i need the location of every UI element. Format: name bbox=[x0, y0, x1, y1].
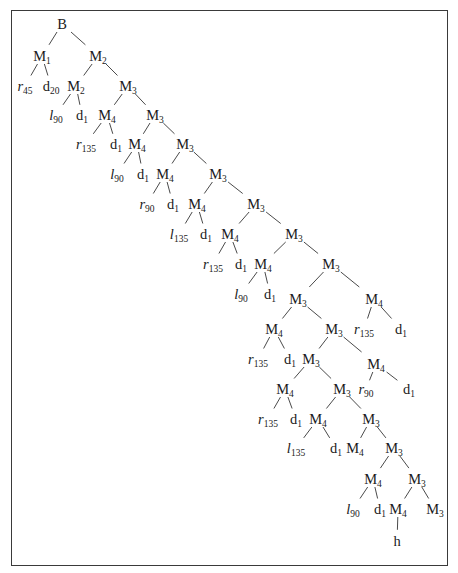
tree-edge bbox=[49, 32, 57, 45]
tree-edge bbox=[204, 182, 212, 194]
tree-edge bbox=[344, 337, 362, 352]
tree-edge bbox=[194, 152, 207, 164]
tree-node-l135: l135 bbox=[170, 226, 189, 244]
tree-node-b: B bbox=[57, 16, 67, 32]
tree-node-m4: M4 bbox=[309, 411, 327, 429]
tree-edge bbox=[153, 182, 160, 194]
tree-node-m4: M4 bbox=[254, 256, 272, 274]
tree-edge bbox=[84, 64, 92, 76]
tree-edge bbox=[239, 212, 249, 224]
tree-node-d20: d20 bbox=[43, 78, 60, 96]
tree-edge bbox=[308, 307, 322, 319]
tree-edge bbox=[350, 397, 361, 409]
tree-edge bbox=[228, 182, 243, 194]
tree-node-r45: r45 bbox=[17, 78, 32, 96]
tree-node-m3: M3 bbox=[322, 256, 340, 274]
tree-edge bbox=[274, 397, 281, 409]
tree-node-l90: l90 bbox=[110, 166, 124, 184]
tree-node-d1: d1 bbox=[403, 381, 415, 399]
tree-edge bbox=[71, 32, 85, 45]
tree-edge bbox=[319, 337, 328, 349]
tree-edge bbox=[135, 94, 145, 105]
tree-edge bbox=[31, 64, 38, 76]
tree-edge bbox=[387, 372, 398, 380]
tree-edge bbox=[319, 367, 331, 379]
tree-node-r135: r135 bbox=[258, 411, 278, 429]
tree-node-m3: M3 bbox=[302, 351, 320, 369]
tree-node-l90: l90 bbox=[49, 107, 63, 125]
tree-node-m4: M4 bbox=[365, 291, 383, 309]
tree-edge bbox=[114, 94, 122, 105]
tree-node-d1: d1 bbox=[374, 501, 386, 519]
tree-edge bbox=[163, 123, 174, 134]
tree-edge bbox=[304, 242, 318, 254]
tree-node-m3: M3 bbox=[209, 166, 227, 184]
tree-edge bbox=[361, 427, 367, 438]
tree-node-h: h bbox=[393, 533, 401, 549]
tree-node-r135: r135 bbox=[248, 351, 268, 369]
tree-node-d1: d1 bbox=[76, 107, 88, 125]
tree-node-m3: M3 bbox=[426, 501, 444, 519]
tree-edge bbox=[124, 152, 132, 164]
tree-edge bbox=[266, 212, 281, 224]
tree-node-m3: M3 bbox=[146, 107, 164, 125]
tree-node-r90: r90 bbox=[358, 381, 373, 399]
tree-node-d1: d1 bbox=[330, 440, 342, 458]
tree-node-r135: r135 bbox=[203, 256, 223, 274]
tree-node-d1: d1 bbox=[290, 411, 302, 429]
tree-node-m3: M3 bbox=[385, 440, 403, 458]
tree-node-m1: M1 bbox=[33, 48, 51, 66]
tree-node-m3: M3 bbox=[408, 471, 426, 489]
tree-node-l90: l90 bbox=[234, 286, 248, 304]
tree-edge bbox=[282, 307, 291, 319]
tree-edge bbox=[370, 372, 373, 380]
tree-node-m4: M4 bbox=[265, 321, 283, 339]
tree-node-d1: d1 bbox=[284, 351, 296, 369]
tree-edge bbox=[249, 272, 257, 284]
tree-node-m4: M4 bbox=[128, 136, 146, 154]
tree-node-d1: d1 bbox=[167, 196, 179, 214]
tree-node-m3: M3 bbox=[362, 411, 380, 429]
tree-node-d1: d1 bbox=[200, 226, 212, 244]
tree-node-r135: r135 bbox=[76, 136, 96, 154]
tree-node-d1: d1 bbox=[110, 136, 122, 154]
tree-node-m4: M4 bbox=[364, 471, 382, 489]
tree-edge bbox=[368, 307, 372, 319]
tree-edge bbox=[274, 242, 286, 254]
tree-node-m3: M3 bbox=[119, 78, 137, 96]
tree-node-m3: M3 bbox=[176, 136, 194, 154]
tree-edge bbox=[219, 242, 226, 254]
tree-edge bbox=[93, 123, 101, 134]
tree-node-m3: M3 bbox=[285, 226, 303, 244]
tree-node-d1: d1 bbox=[137, 166, 149, 184]
tree-edge bbox=[341, 272, 360, 287]
tree-node-r135: r135 bbox=[354, 321, 374, 339]
tree-edge bbox=[143, 123, 150, 134]
tree-node-l90: l90 bbox=[346, 501, 360, 519]
tree-node-m4: M4 bbox=[367, 356, 385, 374]
tree-edge bbox=[326, 397, 335, 409]
tree-edge bbox=[185, 212, 192, 224]
tree-node-d1: d1 bbox=[264, 286, 276, 304]
tree-node-l135: l135 bbox=[287, 440, 306, 458]
tree-edge bbox=[360, 487, 368, 499]
tree-node-m4: M4 bbox=[188, 196, 206, 214]
tree-node-m2: M2 bbox=[89, 48, 107, 66]
tree-node-r90: r90 bbox=[139, 196, 154, 214]
tree-edge bbox=[380, 456, 388, 468]
tree-node-m4: M4 bbox=[221, 226, 239, 244]
tree-node-m4: M4 bbox=[98, 107, 116, 125]
tree-node-m3: M3 bbox=[325, 321, 343, 339]
tree-node-m4: M4 bbox=[276, 381, 294, 399]
tree-node-m3: M3 bbox=[289, 291, 307, 309]
tree-edge bbox=[304, 427, 312, 438]
tree-edge bbox=[264, 337, 270, 349]
tree-edge bbox=[405, 487, 412, 499]
tree-edges bbox=[31, 32, 429, 530]
tree-node-m4: M4 bbox=[156, 166, 174, 184]
tree-node-m2: M2 bbox=[67, 78, 85, 96]
tree-node-m3: M3 bbox=[247, 196, 265, 214]
tree-node-m4: M4 bbox=[389, 501, 407, 519]
tree-node-d1: d1 bbox=[395, 321, 407, 339]
tree-edge bbox=[63, 94, 71, 105]
